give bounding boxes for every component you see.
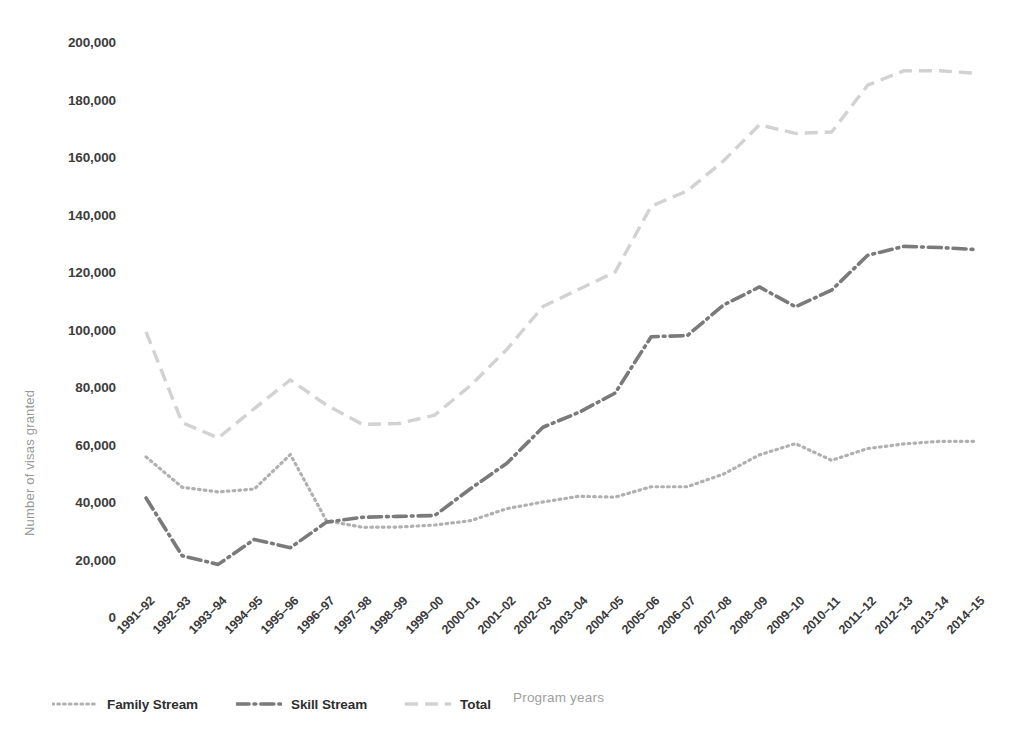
series-line-total	[146, 71, 976, 438]
y-axis-tick-label: 120,000	[50, 265, 116, 280]
y-axis-tick-label: 100,000	[50, 322, 116, 337]
y-axis-tick-label: 200,000	[50, 35, 116, 50]
legend-item-family-stream[interactable]: Family Stream	[52, 697, 198, 712]
legend-swatch-icon	[405, 699, 451, 709]
y-axis-tick-label: 0	[50, 610, 116, 625]
legend-swatch-icon	[52, 699, 98, 709]
y-axis-title: Number of visas granted	[14, 60, 29, 300]
legend-label: Family Stream	[107, 697, 198, 712]
legend-item-skill-stream[interactable]: Skill Stream	[236, 697, 367, 712]
visa-grants-line-chart: Number of visas granted 200,000180,00016…	[0, 0, 1023, 741]
y-axis-tick-label: 60,000	[50, 437, 116, 452]
legend-label: Skill Stream	[291, 697, 367, 712]
series-line-skill-stream	[146, 246, 976, 564]
legend-item-total[interactable]: Total	[405, 697, 491, 712]
y-axis-tick-label: 140,000	[50, 207, 116, 222]
chart-legend: Family StreamSkill StreamTotal	[52, 694, 491, 714]
x-axis-title: Program years	[513, 690, 604, 705]
plot-area	[128, 42, 994, 617]
y-axis-tick-label: 160,000	[50, 150, 116, 165]
y-axis-tick-label: 180,000	[50, 92, 116, 107]
series-canvas	[128, 42, 994, 617]
series-line-family-stream	[146, 441, 976, 527]
y-axis-tick-label: 80,000	[50, 380, 116, 395]
legend-swatch-icon	[236, 699, 282, 709]
y-axis-tick-label: 40,000	[50, 495, 116, 510]
y-axis-tick-label: 20,000	[50, 552, 116, 567]
y-axis-title-label: Number of visas granted	[22, 296, 37, 536]
legend-label: Total	[460, 697, 491, 712]
